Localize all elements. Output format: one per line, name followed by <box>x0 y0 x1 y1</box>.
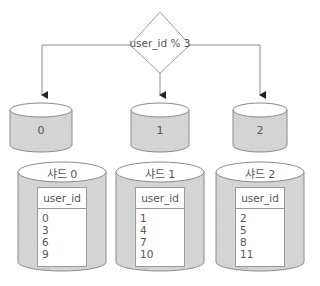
table-row: 8 <box>240 236 284 248</box>
bucket-label-0: 0 <box>21 124 61 137</box>
table-row: 6 <box>42 236 86 248</box>
arrow-to-bucket-2 <box>190 45 260 95</box>
table-row-ellipsis: ... <box>42 260 86 272</box>
column-header: user_id <box>38 188 86 209</box>
column-header: user_id <box>236 188 284 209</box>
table-row: 11 <box>240 248 284 260</box>
table-row: 4 <box>140 224 184 236</box>
shard-table-1: user_id 1 4 7 10 ... <box>135 187 185 267</box>
table-row-ellipsis: ... <box>140 260 184 272</box>
shard-title-2: 샤드 2 <box>220 165 300 181</box>
table-row: 9 <box>42 248 86 260</box>
row-list: 1 4 7 10 ... <box>136 209 184 272</box>
table-row: 1 <box>140 212 184 224</box>
column-header: user_id <box>136 188 184 209</box>
arrow-to-bucket-0 <box>42 45 130 95</box>
shard-title-1: 샤드 1 <box>120 165 200 181</box>
row-list: 2 5 8 11 ... <box>236 209 284 272</box>
table-row: 3 <box>42 224 86 236</box>
table-row-ellipsis: ... <box>240 260 284 272</box>
row-list: 0 3 6 9 ... <box>38 209 86 272</box>
table-row: 5 <box>240 224 284 236</box>
bucket-label-2: 2 <box>240 124 280 137</box>
shard-table-2: user_id 2 5 8 11 ... <box>235 187 285 267</box>
shard-table-0: user_id 0 3 6 9 ... <box>37 187 87 267</box>
shard-title-0: 샤드 0 <box>22 165 102 181</box>
bucket-label-1: 1 <box>140 124 180 137</box>
table-row: 2 <box>240 212 284 224</box>
table-row: 7 <box>140 236 184 248</box>
table-row: 10 <box>140 248 184 260</box>
router-label: user_id % 3 <box>120 37 200 49</box>
table-row: 0 <box>42 212 86 224</box>
